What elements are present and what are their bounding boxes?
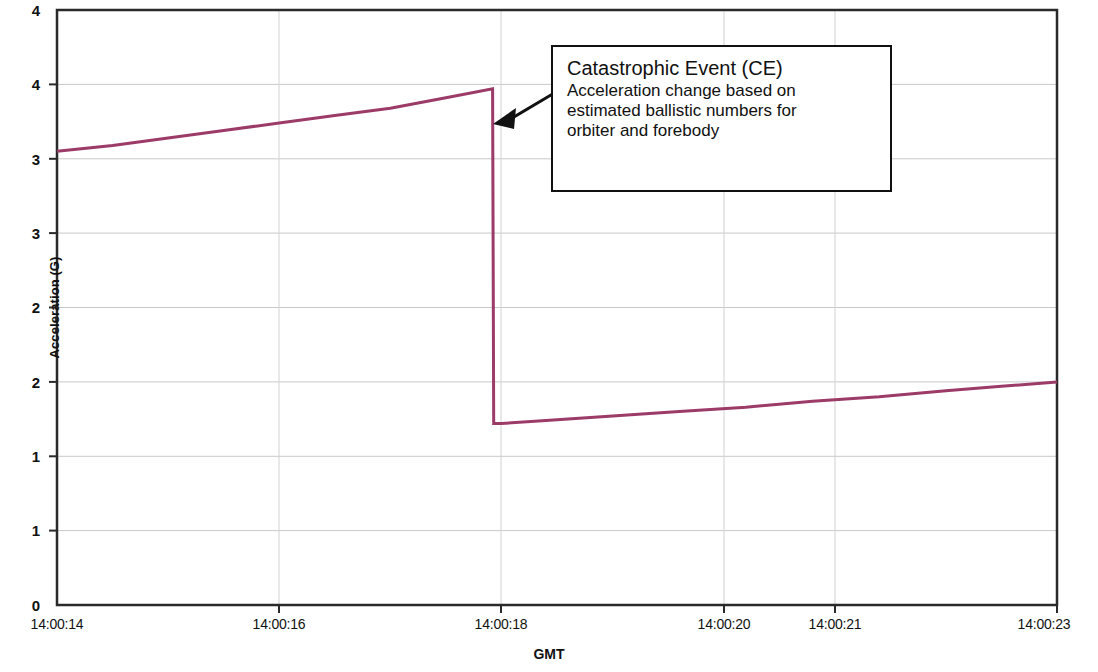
y-tick-label: 2 bbox=[0, 375, 40, 390]
y-tick-label: 4 bbox=[0, 77, 40, 92]
x-axis-title: GMT bbox=[0, 646, 1098, 662]
y-tick-label: 1 bbox=[0, 523, 40, 538]
callout-body-line: Acceleration change based on bbox=[567, 81, 878, 101]
callout-body: Acceleration change based on estimated b… bbox=[567, 81, 878, 141]
x-tick-label: 14:00:23 bbox=[974, 617, 1098, 631]
y-tick-label: 2 bbox=[0, 300, 40, 315]
x-tick-label: 14:00:16 bbox=[209, 617, 349, 631]
y-tick-label: 1 bbox=[0, 449, 40, 464]
x-tick-label: 14:00:18 bbox=[431, 617, 571, 631]
y-tick-label: 0 bbox=[0, 598, 40, 613]
y-axis-title: Acceleration (G) bbox=[47, 208, 62, 408]
callout-title: Catastrophic Event (CE) bbox=[567, 57, 878, 79]
y-tick-label: 3 bbox=[0, 226, 40, 241]
callout-body-line: estimated ballistic numbers for bbox=[567, 101, 878, 121]
y-tick-label: 3 bbox=[0, 152, 40, 167]
x-tick-label: 14:00:21 bbox=[765, 617, 905, 631]
catastrophic-event-callout: Catastrophic Event (CE) Acceleration cha… bbox=[551, 45, 892, 192]
chart-canvas bbox=[0, 0, 1098, 672]
acceleration-vs-gmt-chart: 4 4 3 3 2 2 1 1 0 14:00:14 14:00:16 14:0… bbox=[0, 0, 1098, 672]
callout-leader-arrow bbox=[493, 92, 556, 129]
callout-body-line: orbiter and forebody bbox=[567, 121, 878, 141]
x-tick-label: 14:00:14 bbox=[0, 617, 127, 631]
y-tick-label: 4 bbox=[0, 3, 40, 18]
